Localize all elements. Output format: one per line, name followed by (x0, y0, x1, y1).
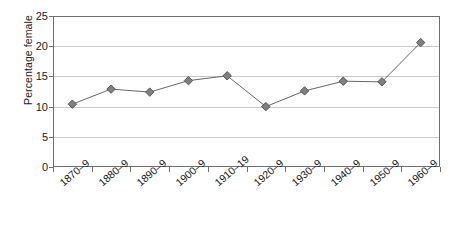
series-line (72, 43, 420, 107)
data-point-marker: 1870–9: 10.4 (68, 100, 76, 108)
data-series-layer: 1870–9: 10.41880–9: 12.91890–9: 12.41900… (0, 0, 464, 229)
data-point-marker: 1900–9: 14.3 (184, 76, 192, 84)
data-point-marker: 1880–9: 12.9 (107, 85, 115, 93)
data-point-marker: 1890–9: 12.4 (146, 88, 154, 96)
data-point-marker: 1930–9: 12.6 (300, 87, 308, 95)
line-chart: Percentage female 0510152025 1870–91880–… (0, 0, 464, 229)
data-point-marker: 1940–9: 14.2 (339, 77, 347, 85)
